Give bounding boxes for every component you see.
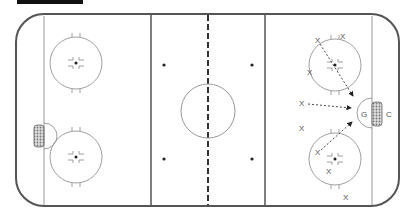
player-marker: X: [299, 124, 305, 133]
coach-label: C: [386, 110, 392, 119]
hockey-rink: G C X X X X X X X X: [0, 0, 412, 220]
player-marker: X: [326, 167, 332, 176]
player-marker: X: [340, 32, 346, 41]
left-net: [34, 125, 44, 147]
right-net: [372, 102, 382, 126]
player-marker: X: [315, 36, 321, 45]
player-marker: X: [315, 148, 321, 157]
player-marker: X: [343, 193, 349, 202]
goalie-label: G: [361, 110, 367, 119]
player-marker: X: [299, 99, 305, 108]
player-marker: X: [307, 68, 313, 77]
